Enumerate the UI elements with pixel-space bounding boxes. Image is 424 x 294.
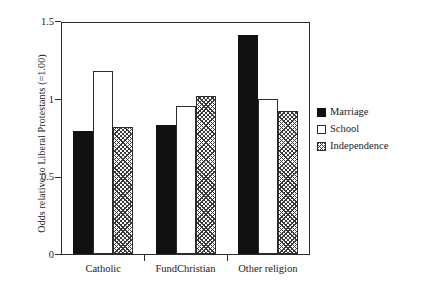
- legend-item-label: Marriage: [330, 107, 368, 118]
- bar-marriage-catholic: [73, 131, 93, 254]
- bar-independence-fundchristian: [196, 96, 216, 254]
- legend-item-independence: Independence: [317, 138, 388, 155]
- bar-independence-other-religion: [278, 111, 298, 254]
- bar-marriage-other-religion: [238, 35, 258, 254]
- solid-black-swatch: [317, 108, 326, 117]
- y-axis-title: Odds relative to Liberal Protestants (=1…: [36, 24, 47, 264]
- y-tick-label: 1.5: [14, 17, 54, 28]
- y-tick-label: 0: [14, 250, 54, 261]
- bars-layer: [62, 23, 308, 254]
- x-category-label-other-religion: Other religion: [227, 263, 309, 274]
- legend-item-label: School: [330, 124, 359, 135]
- y-tick-label: 0.5: [14, 172, 54, 183]
- bar-school-fundchristian: [176, 106, 196, 254]
- hatched-swatch: [317, 142, 326, 151]
- legend-item-marriage: Marriage: [317, 104, 388, 121]
- y-tick-label: 1: [14, 95, 54, 106]
- x-category-label-catholic: Catholic: [62, 263, 144, 274]
- bar-school-catholic: [93, 71, 113, 254]
- x-tick-mark: [144, 255, 145, 261]
- x-category-label-fundchristian: FundChristian: [144, 263, 226, 274]
- legend-item-school: School: [317, 121, 388, 138]
- legend-item-label: Independence: [330, 141, 388, 152]
- white-swatch: [317, 125, 326, 134]
- bar-chart: Odds relative to Liberal Protestants (=1…: [0, 0, 424, 294]
- x-tick-mark: [227, 255, 228, 261]
- bar-independence-catholic: [113, 127, 133, 254]
- bar-school-other-religion: [258, 99, 278, 254]
- bar-marriage-fundchristian: [156, 125, 176, 254]
- chart-legend: MarriageSchoolIndependence: [317, 104, 388, 155]
